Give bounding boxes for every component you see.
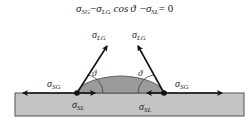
substrate <box>15 93 244 116</box>
label-sigma-sg-left: σSG <box>47 78 61 91</box>
diagram-svg: σSG−σLGcosϑ−σSL= 0 σLG σLG ϑ ϑ σSG σSG σ… <box>0 0 252 122</box>
label-theta-left: ϑ <box>92 68 97 78</box>
liquid-droplet <box>77 76 164 93</box>
label-sigma-lg-right: σLG <box>132 29 146 42</box>
label-theta-right: ϑ <box>138 68 143 78</box>
label-sigma-sg-right: σSG <box>175 78 189 91</box>
young-equation-diagram: σSG−σLGcosϑ−σSL= 0 σLG σLG ϑ ϑ σSG σSG σ… <box>0 0 252 122</box>
equation: σSG−σLGcosϑ−σSL= 0 <box>76 2 174 16</box>
label-sigma-lg-left: σLG <box>92 29 106 42</box>
contact-point-left <box>74 90 80 96</box>
contact-point-right <box>161 90 167 96</box>
